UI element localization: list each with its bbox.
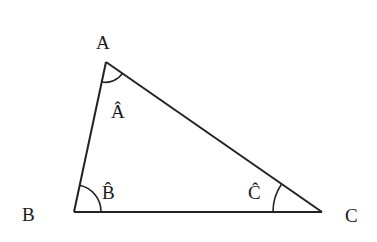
vertex-label-c: C — [345, 205, 358, 226]
vertex-label-b: B — [22, 204, 35, 225]
angle-label-a: Â — [111, 101, 125, 122]
triangle-diagram: A B C Â B̂ Ĉ — [0, 0, 377, 242]
angle-label-b: B̂ — [102, 182, 115, 203]
vertex-label-a: A — [96, 32, 110, 53]
triangle-svg: A B C Â B̂ Ĉ — [0, 0, 377, 242]
angle-label-c: Ĉ — [248, 182, 261, 203]
side-ac — [106, 62, 322, 212]
angle-arc-b — [80, 185, 101, 212]
angle-arc-c — [273, 184, 282, 212]
angle-arc-a — [102, 73, 123, 82]
